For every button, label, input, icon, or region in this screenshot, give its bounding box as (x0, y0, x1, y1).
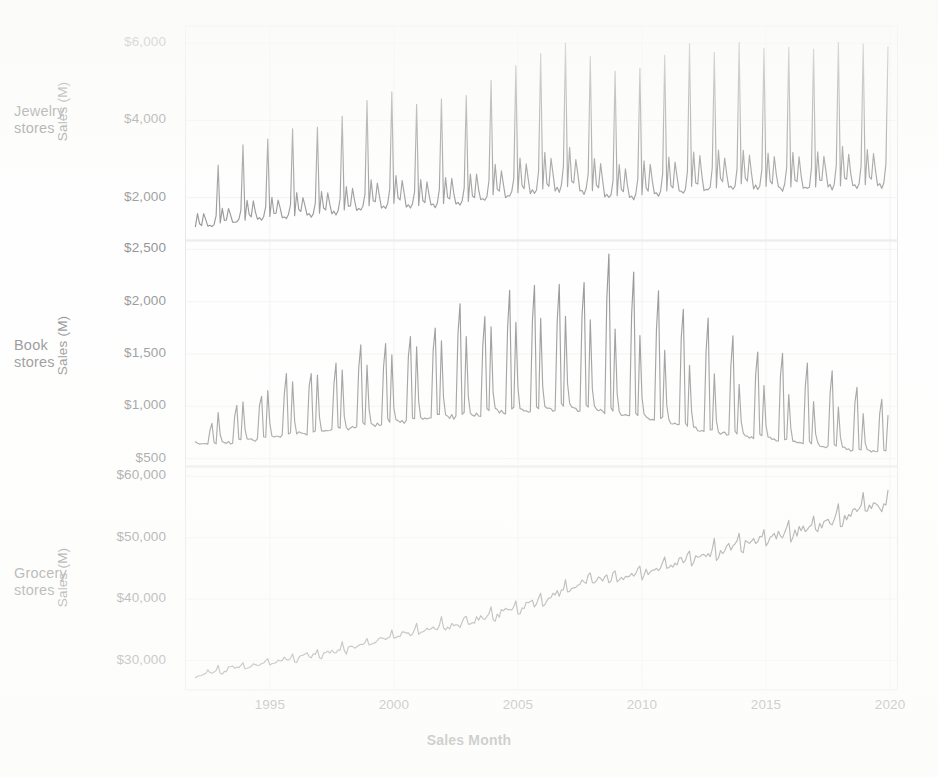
x-tick-label: 1995 (240, 697, 300, 712)
y-tick-label: $40,000 (78, 590, 166, 605)
y-tick-label: $50,000 (78, 529, 166, 544)
y-axis-title-jewelry: Sales (M) (55, 52, 70, 172)
y-tick-label: $4,000 (78, 111, 166, 126)
retail-sales-facet-chart: Jewelry stores Book stores Grocery store… (0, 0, 938, 777)
y-tick-label: $2,000 (78, 293, 166, 308)
y-tick-label: $30,000 (78, 652, 166, 667)
y-tick-label: $500 (78, 450, 166, 465)
x-tick-label: 2000 (364, 697, 424, 712)
y-tick-label: $1,000 (78, 397, 166, 412)
y-tick-label: $60,000 (78, 467, 166, 482)
x-axis-title: Sales Month (0, 732, 938, 748)
x-tick-label: 2010 (612, 697, 672, 712)
y-axis-title-book: Sales (M) (55, 286, 70, 406)
y-axis-title-grocery: Sales (M) (55, 518, 70, 638)
x-tick-label: 2015 (736, 697, 796, 712)
x-tick-label: 2020 (860, 697, 920, 712)
y-tick-label: $2,000 (78, 189, 166, 204)
y-tick-label: $6,000 (78, 34, 166, 49)
y-tick-label: $2,500 (78, 240, 166, 255)
y-tick-label: $1,500 (78, 345, 166, 360)
x-tick-label: 2005 (488, 697, 548, 712)
